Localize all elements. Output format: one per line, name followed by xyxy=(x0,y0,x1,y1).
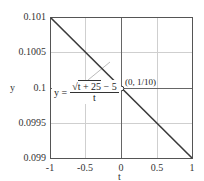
formula-lhs: y = xyxy=(54,87,67,98)
formula-label: y = √t + 25 − 5 t xyxy=(52,80,121,104)
x-tick-label: 0.5 xyxy=(151,163,164,173)
y-tick-label: 0.101 xyxy=(24,12,47,22)
sqrt-icon: √ xyxy=(72,81,78,92)
y-tick-label: 0.0995 xyxy=(19,118,47,128)
x-tick-label: -0.5 xyxy=(77,163,93,173)
point-annotation: (0, 1/10) xyxy=(125,77,156,87)
x-axis-label: t xyxy=(118,171,121,181)
y-tick-label: 0.1005 xyxy=(19,47,47,57)
y-tick-label: 0.099 xyxy=(24,153,47,163)
x-tick-label: -1 xyxy=(46,163,54,173)
y-axis-label: y xyxy=(10,82,15,93)
x-tick-label: 1 xyxy=(190,163,195,173)
formula-denominator: t xyxy=(93,93,96,103)
formula-fraction: √t + 25 − 5 t xyxy=(70,81,119,103)
formula-radicand: t + 25 xyxy=(78,80,101,92)
formula-numerator-rest: − 5 xyxy=(101,81,117,92)
y-tick-label: 0.1 xyxy=(34,83,47,93)
